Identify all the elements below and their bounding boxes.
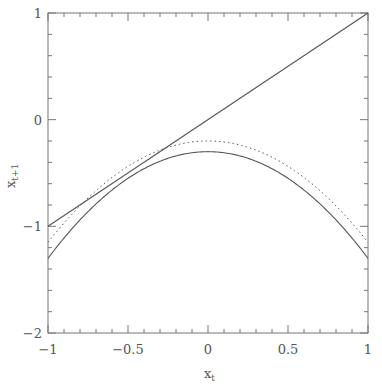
plot-frame xyxy=(48,13,368,333)
series-map-dotted xyxy=(48,141,368,242)
y-tick-label: −1 xyxy=(23,219,42,234)
y-tick-label: 0 xyxy=(34,113,42,128)
x-tick-label: 0.5 xyxy=(278,342,299,357)
x-tick-label: −0.5 xyxy=(112,342,144,357)
series-identity xyxy=(48,13,368,226)
x-axis-label: xt xyxy=(204,366,215,383)
x-tick-label: −1 xyxy=(38,342,57,357)
y-tick-label: −2 xyxy=(23,326,42,341)
x-tick-label: 1 xyxy=(364,342,372,357)
series-lines xyxy=(48,13,368,258)
chart: −1−0.500.5110−1−2 xt xt+1 xyxy=(0,0,382,389)
y-tick-label: 1 xyxy=(34,6,42,21)
y-axis-label: xt+1 xyxy=(3,164,20,188)
axis-ticks xyxy=(48,13,368,333)
axis-labels: xt xt+1 xyxy=(3,164,215,383)
x-tick-label: 0 xyxy=(204,342,212,357)
tick-labels: −1−0.500.5110−1−2 xyxy=(23,6,372,357)
series-map-solid xyxy=(48,152,368,259)
plot-border xyxy=(48,13,368,333)
